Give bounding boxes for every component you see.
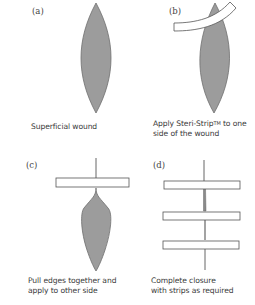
steri-strip-c	[56, 178, 129, 187]
caption-b-line1: Apply Steri-StripTM to one	[153, 119, 247, 129]
panel-label-d: (d)	[153, 160, 165, 170]
steri-strip-curved	[174, 2, 236, 31]
caption-d: Complete closure with strips as required	[151, 276, 233, 296]
panel-label-b: (b)	[169, 6, 181, 16]
wound-line-d-mid	[204, 188, 207, 211]
panel-label-c: (c)	[26, 160, 37, 170]
trademark-sup: TM	[213, 120, 220, 126]
caption-d-line2: with strips as required	[151, 286, 233, 296]
wound-open-a	[81, 3, 111, 113]
steri-strip-d-2	[163, 212, 240, 220]
caption-b-suffix: to one	[221, 119, 247, 128]
caption-c: Pull edges together and apply to other s…	[28, 276, 116, 296]
caption-c-line1: Pull edges together and	[28, 276, 116, 286]
steri-strip-d-3	[163, 241, 239, 249]
caption-d-line1: Complete closure	[151, 276, 233, 286]
caption-a-line1: Superficial wound	[31, 122, 97, 131]
steri-strip-d-1	[164, 181, 240, 189]
panel-label-a: (a)	[32, 6, 44, 16]
caption-a: Superficial wound	[31, 122, 97, 132]
caption-c-line2: apply to other side	[28, 286, 116, 296]
caption-b-line2: side of the wound	[153, 129, 247, 139]
caption-b-prefix: Apply Steri-Strip	[153, 119, 213, 128]
wound-teardrop-c	[82, 188, 111, 271]
diagram-canvas	[0, 0, 255, 305]
caption-b: Apply Steri-StripTM to one side of the w…	[153, 119, 247, 139]
